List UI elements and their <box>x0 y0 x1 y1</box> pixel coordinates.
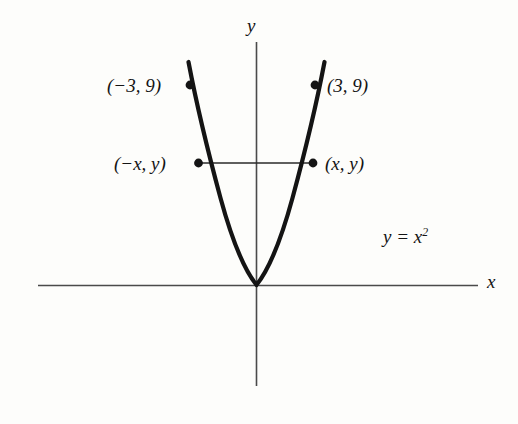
point-label-neg-x-y: (−x, y) <box>114 154 166 173</box>
x-axis-label: x <box>487 272 495 291</box>
equation-exponent: 2 <box>422 226 428 239</box>
equation-base: y = x <box>383 226 422 247</box>
point-marker-pos-3-9 <box>311 81 320 90</box>
point-marker-neg-x-y <box>194 159 203 168</box>
point-label-pos-3-9: (3, 9) <box>327 76 368 95</box>
point-marker-pos-x-y <box>309 159 318 168</box>
point-label-pos-x-y: (x, y) <box>325 154 364 173</box>
point-label-neg-3-9: (−3, 9) <box>107 76 161 95</box>
graph-canvas <box>0 0 518 424</box>
curve-equation-label: y = x2 <box>383 227 428 246</box>
parabola-figure: (−3, 9) (3, 9) (−x, y) (x, y) y x y = x2 <box>0 0 518 424</box>
point-marker-neg-3-9 <box>186 81 195 90</box>
y-axis-label: y <box>247 16 255 35</box>
